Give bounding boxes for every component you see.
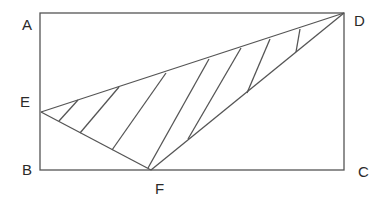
label-e: E [20,93,30,110]
label-c: C [358,163,369,180]
segment-ed [41,13,344,112]
hatch-line [112,73,166,150]
label-b: B [22,161,32,178]
hatch-line [148,59,209,168]
hatch-line [247,39,270,93]
hatch-line [80,87,119,133]
label-a: A [22,16,32,33]
segment-ef [41,112,151,170]
geometry-diagram: A D E B F C [0,0,378,199]
label-d: D [354,12,365,29]
diagram-canvas: A D E B F C [0,0,378,199]
label-f: F [155,180,164,197]
